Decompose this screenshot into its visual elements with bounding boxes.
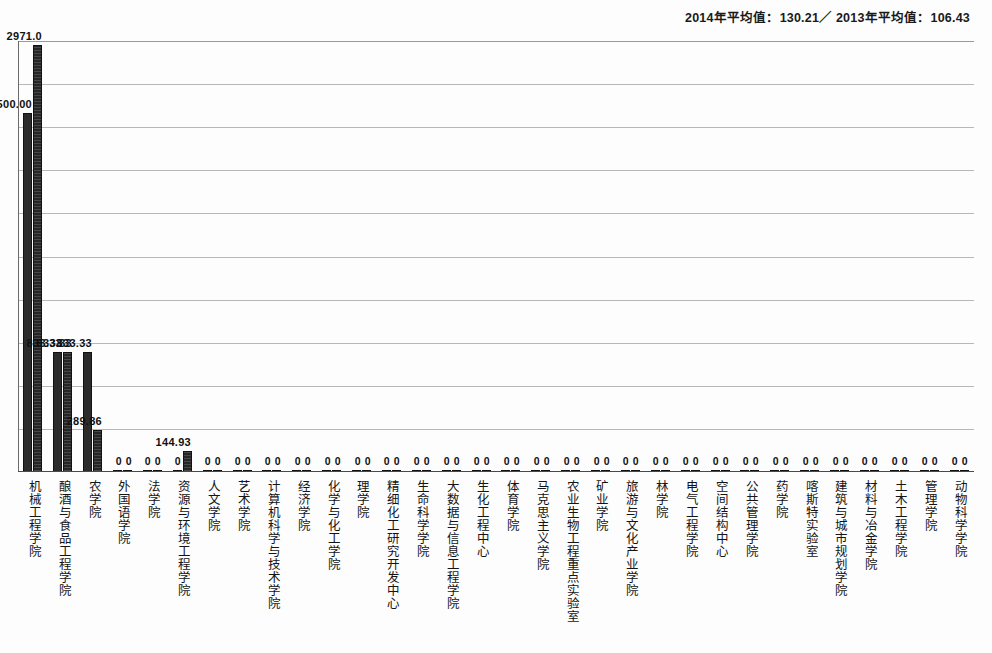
bar-series-container: 2500.002971.0833.33833.33833.33289.86000… [18,41,974,472]
bar-value-label: 0 [564,455,570,467]
bar-value-label: 0 [872,455,878,467]
bar-value-label: 2971.0 [6,30,41,42]
x-axis-label-text: 机械工程学院 [27,478,40,650]
x-axis-label-cell: 药学院 [765,478,795,650]
bar-group: 00 [526,41,556,472]
bar-value-label: 0 [215,455,221,467]
bar-group: 00 [257,41,287,472]
plot-area: 2500.002971.0833.33833.33833.33289.86000… [18,41,974,472]
x-axis-label-cell: 法学院 [138,478,168,650]
bar-value-label: 0 [454,455,460,467]
bar-value-label: 0 [783,455,789,467]
bar-group: 0144.93 [167,41,197,472]
x-axis-label-text: 生命科学学院 [415,478,428,650]
x-axis-label-cell: 电气工程学院 [675,478,705,650]
bar-value-label: 0 [902,455,908,467]
x-axis-label-cell: 建筑与城市规划学院 [825,478,855,650]
bar-value-label: 0 [773,455,779,467]
x-axis-label-cell: 计算机科学与技术学院 [257,478,287,650]
bar-value-label: 0 [683,455,689,467]
bar-group: 00 [825,41,855,472]
x-axis-label-text: 体育学院 [505,478,518,650]
bar-value-label: 0 [593,455,599,467]
bar-group: 00 [347,41,377,472]
bar-value-label: 0 [603,455,609,467]
bar-value-label: 0 [115,455,121,467]
bar-group: 00 [884,41,914,472]
bar-value-label: 0 [544,455,550,467]
bar-value-label: 0 [364,455,370,467]
x-axis-label-text: 电气工程学院 [684,478,697,650]
bar-value-label: 0 [175,455,181,467]
bar-value-label: 0 [713,455,719,467]
bar-value-label: 0 [842,455,848,467]
bar-value-label: 0 [753,455,759,467]
bar-value-label: 0 [962,455,968,467]
bar-group: 00 [944,41,974,472]
bar: 833.33 [53,352,62,472]
bar-value-label: 0 [813,455,819,467]
x-axis-label-text: 化学与化工学院 [325,478,338,650]
x-axis-label-text: 药学院 [773,478,786,650]
bar-value-label: 0 [633,455,639,467]
bar-value-label: 0 [663,455,669,467]
bar-value-label: 0 [354,455,360,467]
x-axis-label-cell: 经济学院 [287,478,317,650]
bar-value-label: 0 [892,455,898,467]
bar-group: 00 [496,41,526,472]
x-axis-label-text: 外国语学院 [116,478,129,650]
bar: 2971.0 [33,45,42,472]
x-axis-label-cell: 土木工程学院 [884,478,914,650]
bar-group: 00 [197,41,227,472]
x-axis-label-cell: 空间结构中心 [705,478,735,650]
bar-value-label: 0 [803,455,809,467]
bar-value-label: 0 [155,455,161,467]
x-axis-label-cell: 喀斯特实验室 [795,478,825,650]
bar-group: 00 [138,41,168,472]
x-axis-label-text: 法学院 [146,478,159,650]
bar-group: 00 [108,41,138,472]
bar-group: 00 [616,41,646,472]
x-axis-label-text: 矿业学院 [594,478,607,650]
bar-group: 00 [466,41,496,472]
x-axis-label-cell: 矿业学院 [586,478,616,650]
bar-value-label: 0 [623,455,629,467]
bar-group: 00 [675,41,705,472]
bar-value-label: 0 [514,455,520,467]
x-axis-label-text: 大数据与信息工程学院 [445,478,458,650]
bar-value-label: 0 [504,455,510,467]
x-axis-label-cell: 管理学院 [914,478,944,650]
x-axis-label-text: 酿酒与食品工程学院 [56,478,69,650]
x-axis-label-text: 动物科学学院 [953,478,966,650]
average-value-note: 2014年平均值：130.21／ 2013年平均值：106.43 [685,7,970,26]
bar-value-label: 0 [723,455,729,467]
bar-value-label: 0 [653,455,659,467]
x-axis-label-cell: 大数据与信息工程学院 [436,478,466,650]
bar-group: 833.33833.33 [48,41,78,472]
bar-value-label: 0 [574,455,580,467]
bar-value-label: 0 [414,455,420,467]
bar: 833.33 [63,352,72,472]
x-axis-label-text: 计算机科学与技术学院 [266,478,279,650]
bar-value-label: 289.86 [66,415,101,427]
bar-group: 00 [436,41,466,472]
bar-group: 00 [735,41,765,472]
x-axis-label-cell: 马克思主义学院 [526,478,556,650]
bar-value-label: 0 [534,455,540,467]
bar: 2500.00 [23,113,32,472]
bar: 833.33 [83,352,92,472]
bar-group: 00 [227,41,257,472]
bar-group: 00 [795,41,825,472]
bar-group: 00 [705,41,735,472]
x-axis-label-cell: 材料与冶金学院 [855,478,885,650]
bar-value-label: 0 [125,455,131,467]
bar-group: 00 [765,41,795,472]
x-axis-label-text: 理学院 [355,478,368,650]
x-axis-label-cell: 公共管理学院 [735,478,765,650]
x-axis-label-cell: 资源与环境工程学院 [167,478,197,650]
bar-group: 00 [855,41,885,472]
x-axis-labels: 机械工程学院酿酒与食品工程学院农学院外国语学院法学院资源与环境工程学院人文学院艺… [18,478,974,650]
bar-value-label: 0 [394,455,400,467]
x-axis-label-cell: 生命科学学院 [406,478,436,650]
x-axis-label-cell: 酿酒与食品工程学院 [48,478,78,650]
